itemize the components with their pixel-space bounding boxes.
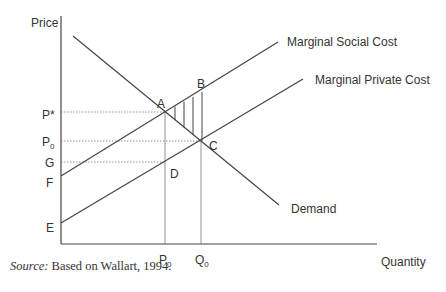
y-tick-g: G [45,156,54,170]
point-d-label: D [170,167,179,181]
msc-curve [61,42,278,176]
deadweight-loss-hatching [175,92,202,141]
msc-label: Marginal Social Cost [287,35,398,49]
x-axis-label: Quantity [381,255,426,269]
externality-diagram: Price Quantity P* P0 G F E P0 Q0 Margina… [0,0,446,292]
y-tick-e: E [46,221,54,235]
point-a-label: A [157,97,165,111]
point-c-label: C [209,139,218,153]
point-b-label: B [197,77,205,91]
y-tick-p0: P0 [42,135,55,151]
source-text: Based on Wallart, 1994. [48,259,171,273]
y-tick-pstar: P* [42,108,55,122]
source-caption: Source: Based on Wallart, 1994. [10,259,171,274]
y-axis-label: Price [31,16,59,30]
x-tick-q0: Q0 [195,253,209,269]
source-prefix: Source: [10,259,48,273]
mpc-label: Marginal Private Cost [315,73,430,87]
demand-label: Demand [291,202,336,216]
y-tick-f: F [46,176,53,190]
